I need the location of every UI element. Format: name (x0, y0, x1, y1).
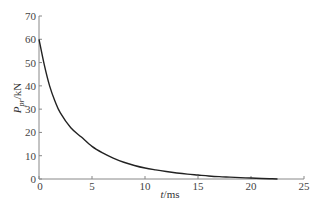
y-tick-label: 70 (25, 10, 37, 22)
y-tick-label: 20 (25, 126, 37, 138)
y-tick-label: 60 (25, 33, 37, 45)
x-tick-label: 0 (37, 180, 43, 192)
x-axis-label: t/ms (161, 188, 180, 200)
y-tick-label: 0 (31, 173, 37, 185)
y-tick-label: 30 (25, 103, 37, 115)
x-tick-label: 5 (89, 180, 95, 192)
x-tick-label: 15 (193, 180, 205, 192)
y-tick-label: 10 (25, 150, 37, 162)
y-tick-label: 40 (25, 80, 37, 92)
y-axis-label: Ppr/kN (11, 83, 26, 114)
axes (39, 16, 304, 179)
x-tick-label: 10 (140, 180, 152, 192)
x-tick-label: 20 (246, 180, 258, 192)
y-tick-label: 50 (25, 57, 37, 69)
x-tick-label: 25 (299, 180, 311, 192)
ticks: 0510152025010203040506070 (25, 10, 310, 192)
line-chart: 0510152025010203040506070 t/ms Ppr/kN (0, 0, 321, 209)
data-line (39, 39, 278, 179)
